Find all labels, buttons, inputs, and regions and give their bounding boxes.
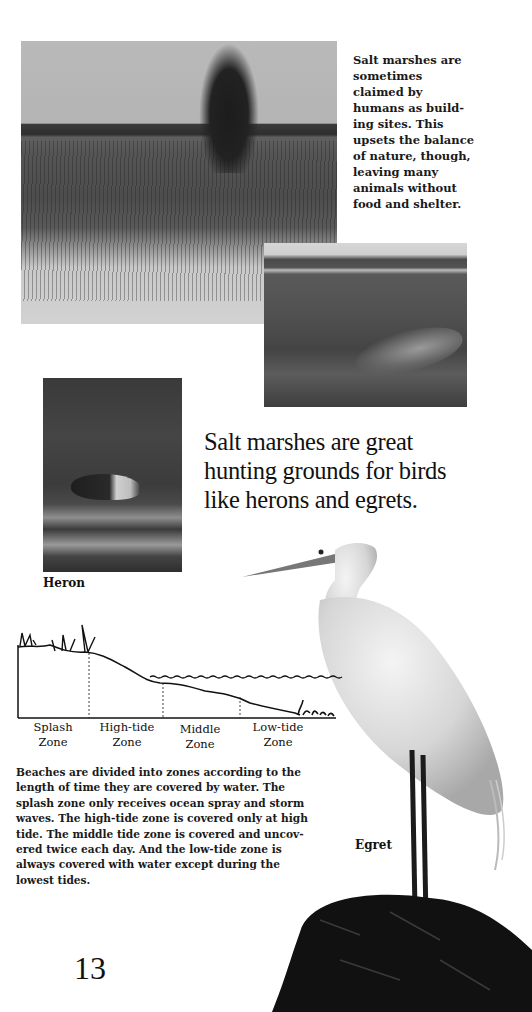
body-line: tide. The middle tide zone is covered an…	[16, 827, 326, 842]
zone-label-low-tide: Low-tide Zone	[238, 720, 318, 750]
body-line: ered twice each day. And the low-tide zo…	[16, 842, 326, 857]
body-line: splash zone only receives ocean spray an…	[16, 796, 326, 811]
sidebar-line: claimed by	[353, 84, 532, 100]
marsh-hills-photo	[264, 243, 467, 407]
heron-caption: Heron	[43, 576, 85, 590]
body-line: waves. The high-tide zone is covered onl…	[16, 811, 326, 826]
pull-quote-line: Salt marshes are great	[204, 427, 524, 456]
beach-zone-diagram: Splash Zone High-tide Zone Middle Zone L…	[0, 615, 350, 755]
sidebar-line: Salt marshes are	[353, 52, 532, 68]
zone-label-high-tide: High-tide Zone	[87, 720, 167, 750]
sidebar-line: animals without	[353, 180, 532, 196]
beach-profile-drawing	[0, 615, 350, 725]
page-number: 13	[74, 950, 106, 987]
pull-quote-line: hunting grounds for birds	[204, 456, 524, 485]
zone-label-middle: Middle Zone	[160, 722, 240, 752]
heron-photo	[43, 378, 182, 572]
sidebar-caption: Salt marshes are sometimes claimed by hu…	[353, 52, 532, 212]
sidebar-line: sometimes	[353, 68, 532, 84]
sidebar-line: upsets the balance	[353, 132, 532, 148]
sidebar-line: ing sites. This	[353, 116, 532, 132]
sidebar-line: leaving many	[353, 164, 532, 180]
pull-quote-line: like herons and egrets.	[204, 485, 524, 514]
stream-shape	[351, 318, 467, 383]
body-line: always covered with water except during …	[16, 857, 326, 872]
body-line: lowest tides.	[16, 873, 326, 888]
heron-shape	[71, 474, 141, 500]
sidebar-line: food and shelter.	[353, 196, 532, 212]
egret-caption: Egret	[355, 838, 392, 852]
sidebar-line: humans as build-	[353, 100, 532, 116]
zone-label-splash: Splash Zone	[13, 720, 93, 750]
sidebar-line: of nature, though,	[353, 148, 532, 164]
body-line: Beaches are divided into zones according…	[16, 765, 326, 780]
zone-explanation-paragraph: Beaches are divided into zones according…	[16, 765, 326, 888]
pull-quote: Salt marshes are great hunting grounds f…	[204, 427, 524, 514]
body-line: length of time they are covered by water…	[16, 780, 326, 795]
